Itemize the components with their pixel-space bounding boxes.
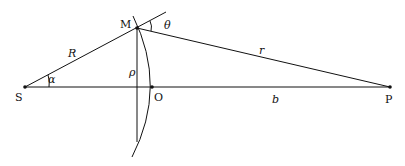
line-mp [137, 28, 390, 87]
point-m [135, 26, 139, 30]
label-theta: θ [164, 19, 171, 32]
label-rho: ρ [128, 66, 136, 79]
label-m: M [120, 18, 131, 31]
diagram-canvas: S M O P R r ρ b α θ [0, 0, 405, 166]
theta-angle-arc [150, 21, 151, 31]
label-s: S [15, 91, 23, 104]
point-p [388, 85, 392, 89]
label-r-big: R [67, 47, 76, 60]
label-p: P [385, 93, 393, 106]
label-alpha: α [48, 73, 56, 86]
label-o: O [154, 91, 163, 104]
line-sm-extended [25, 12, 166, 87]
label-r-small: r [259, 44, 265, 57]
point-s [23, 85, 27, 89]
label-b: b [272, 93, 279, 106]
point-o [150, 85, 154, 89]
